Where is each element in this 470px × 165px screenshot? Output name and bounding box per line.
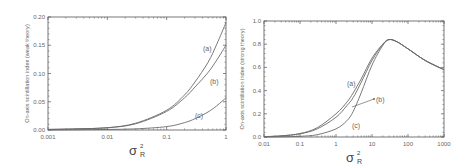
series-label-a: (a) [203,45,212,53]
x-tick-label: 0.1 [296,141,305,147]
x-tick-label: 1 [224,134,228,140]
y-axis-label: On-axis scintillation index (strong theo… [239,28,245,129]
series-label-a: (a) [347,80,356,88]
series-label-c: (c) [352,122,360,130]
y-tick-label: 0.20 [33,14,45,20]
series-label-b: (b) [210,78,219,86]
label-b-pointer-dot [373,98,375,100]
y-axis-label: On-axis scintillation index (weak theory… [24,24,30,123]
x-axis-label: σ [129,143,137,158]
x-axis-label-subscript: R [140,151,145,158]
x-tick-label: 1 [334,141,338,147]
y-tick-label: 0.10 [33,71,45,77]
x-tick-label: 0.001 [40,134,56,140]
x-axis: 0.0010.010.11 [40,17,228,140]
y-tick-label: 0.6 [253,64,262,70]
x-axis-label-superscript: 2 [357,150,361,156]
left-chart-svg: 0.0010.010.110.000.050.100.150.20On-axis… [0,0,235,165]
right-chart-svg: 0.010.111010010000.00.20.40.60.81.0On-ax… [235,0,470,165]
label-b-pointer [352,99,374,107]
y-tick-label: 0.0 [253,134,262,140]
x-tick-label: 10 [369,141,376,147]
x-axis-label-subscript: R [357,158,362,165]
x-tick-label: 0.01 [258,141,270,147]
y-tick-label: 0.15 [33,42,45,48]
y-tick-label: 0.8 [253,41,262,47]
series-label-b: (b) [376,96,385,104]
plot-frame [264,21,444,137]
left-chart: 0.0010.010.110.000.050.100.150.20On-axis… [0,0,235,165]
x-tick-label: 0.1 [162,134,171,140]
y-tick-label: 0.2 [253,111,262,117]
y-axis: 0.00.20.40.60.81.0 [253,18,444,140]
x-axis-label: σ [346,150,354,165]
y-tick-label: 0.05 [33,99,45,105]
right-chart: 0.010.111010010000.00.20.40.60.81.0On-ax… [235,0,470,165]
x-tick-label: 1000 [437,141,451,147]
x-axis-label-superscript: 2 [140,143,144,149]
series-label-c: (c) [195,112,203,120]
y-tick-label: 0.4 [253,88,262,94]
y-tick-label: 0.00 [33,127,45,133]
y-tick-label: 1.0 [253,18,262,24]
x-tick-label: 100 [403,141,414,147]
x-tick-label: 0.01 [101,134,113,140]
